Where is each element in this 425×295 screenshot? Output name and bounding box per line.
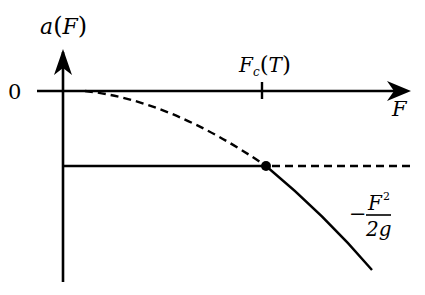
svg-text:F: F xyxy=(367,191,383,215)
transition-point xyxy=(261,161,271,171)
origin-label: 0 xyxy=(8,80,21,104)
curve-label: − F 2 2g xyxy=(349,190,392,241)
dashed-parabola xyxy=(85,91,266,166)
free-energy-diagram: a(F) 0 Fc(T) F − F 2 2g xyxy=(0,0,425,295)
svg-text:−: − xyxy=(349,202,367,226)
y-axis-label: a(F) xyxy=(40,12,87,40)
x-axis-label: F xyxy=(391,97,408,121)
svg-text:2: 2 xyxy=(383,190,390,203)
tick-label: Fc(T) xyxy=(238,51,291,79)
svg-text:2g: 2g xyxy=(365,217,392,241)
